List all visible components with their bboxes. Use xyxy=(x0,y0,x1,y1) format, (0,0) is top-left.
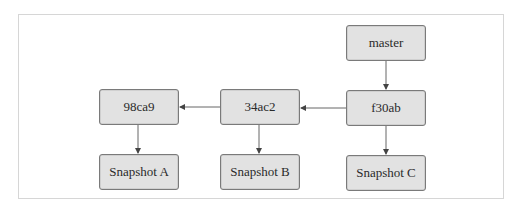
node-label: 34ac2 xyxy=(244,99,275,115)
node-label: Snapshot A xyxy=(109,164,169,180)
node-commit-98ca9: 98ca9 xyxy=(99,89,179,125)
node-label: 98ca9 xyxy=(123,99,154,115)
node-snapshot-c: Snapshot C xyxy=(346,155,426,191)
node-snapshot-b: Snapshot B xyxy=(220,154,300,190)
node-master: master xyxy=(346,25,426,61)
node-label: f30ab xyxy=(371,100,401,116)
node-label: master xyxy=(369,35,404,51)
node-commit-f30ab: f30ab xyxy=(346,90,426,126)
node-commit-34ac2: 34ac2 xyxy=(220,89,300,125)
node-snapshot-a: Snapshot A xyxy=(99,154,179,190)
node-label: Snapshot C xyxy=(356,165,416,181)
node-label: Snapshot B xyxy=(230,164,290,180)
